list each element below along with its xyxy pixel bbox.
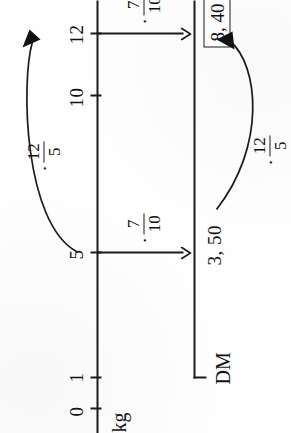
multiplication-dot-icon: · [34,165,53,171]
kg-number-line [96,0,98,433]
operator-dm-twelve-fifths: ·125 [250,135,289,165]
transfer-arrow-lower-head [180,246,191,259]
multiplication-dot-icon: · [134,237,153,243]
fraction-denominator: 5 [45,141,63,162]
kg-tick-0 [90,408,101,410]
fraction-denominator: 10 [145,0,163,15]
operator-lower-seven-tenths: ·710 [124,213,163,243]
kg-tick-10 [90,95,101,97]
dm-axis-label: DM [212,352,232,384]
figure-canvas: 0 1 5 10 12 kg DM 3, 50 ·710 ·710 [0,0,291,433]
kg-axis-label: kg [108,412,128,432]
curve-arrow-kg [18,13,80,263]
fraction-numerator: 12 [250,135,268,156]
fraction-denominator: 10 [145,213,163,234]
fraction-seven-tenths: 710 [124,0,163,15]
fraction-twelve-fifths: 125 [250,135,289,156]
fraction-denominator: 5 [271,135,289,156]
multiplication-dot-icon: · [260,159,279,165]
multiplication-dot-icon: · [134,18,153,24]
dm-number-line [193,0,195,378]
curve-arrow-dm-head [216,31,234,49]
kg-tick-label-0: 0 [66,406,85,416]
transfer-arrow-lower-shaft [97,252,183,254]
kg-tick-label-1: 1 [66,372,85,382]
operator-upper-seven-tenths: ·710 [124,0,163,24]
transfer-arrow-upper-head [180,27,191,40]
fraction-seven-tenths: 710 [124,213,163,234]
dm-value-lower: 3, 50 [204,225,223,266]
operator-kg-twelve-fifths: ·125 [24,141,63,171]
curve-arrow-dm [210,25,270,215]
transfer-arrow-upper-shaft [97,33,183,35]
fraction-numerator: 7 [124,213,142,234]
fraction-numerator: 7 [124,0,142,15]
dm-axis-end-cap [193,376,206,378]
kg-tick-1 [90,377,101,379]
fraction-numerator: 12 [24,141,42,162]
rotated-figure-stage: 0 1 5 10 12 kg DM 3, 50 ·710 ·710 [0,0,291,433]
fraction-twelve-fifths: 125 [24,141,63,162]
